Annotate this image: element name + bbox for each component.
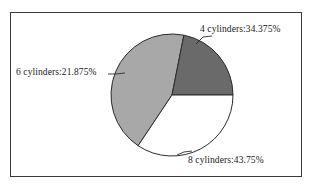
pie-label-four-cylinders: 4 cylinders:34.375% (200, 25, 281, 35)
pie-label-eight-cylinders: 8 cylinders:43.75% (188, 156, 264, 166)
pie-chart-figure: 4 cylinders:34.375% 6 cylinders:21.875% … (0, 0, 314, 189)
pie-label-six-cylinders: 6 cylinders:21.875% (16, 68, 97, 78)
